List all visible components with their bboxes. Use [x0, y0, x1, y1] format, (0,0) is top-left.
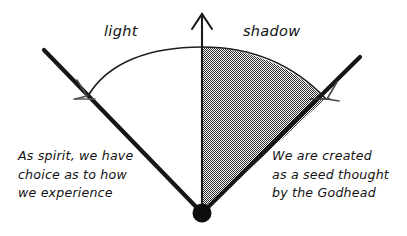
- apex-dot-icon: [193, 204, 212, 223]
- note-right-godhead: We are created as a seed thought by the …: [272, 147, 389, 203]
- note-left-line-2: choice as to how: [18, 166, 133, 185]
- note-right-line-1: We are created: [272, 147, 389, 166]
- note-left-line-3: we experience: [18, 184, 133, 203]
- note-left-line-1: As spirit, we have: [18, 147, 133, 166]
- note-left-spirit: As spirit, we have choice as to how we e…: [18, 147, 133, 203]
- note-right-line-2: as a seed thought: [272, 166, 389, 185]
- diagram-canvas: light shadow As spirit, we have choice a…: [0, 0, 407, 236]
- label-light: light: [104, 23, 138, 39]
- label-shadow: shadow: [243, 23, 300, 39]
- note-right-line-3: by the Godhead: [272, 184, 389, 203]
